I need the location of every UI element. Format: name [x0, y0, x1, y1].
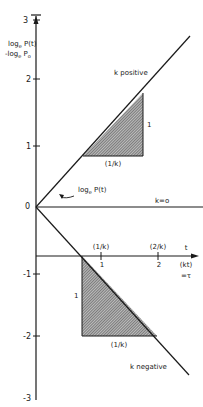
t-axis-label-tau: =τ: [181, 272, 191, 280]
y-tick-1: 1: [26, 142, 31, 151]
t-axis-arrow-icon: [191, 254, 199, 259]
y-tick-neg3: -3: [23, 394, 31, 403]
y-tick-2: 2: [26, 75, 31, 84]
lower-triangle-hatch: [82, 256, 157, 336]
y-tick-neg1: -1: [23, 270, 31, 279]
t-tick-2-over-k: (2/k): [150, 243, 167, 251]
label-k-zero: k=o: [155, 197, 169, 205]
curve-label-loge-pt: loge P(t): [78, 186, 107, 195]
upper-triangle-vertical-label: 1: [147, 121, 151, 129]
upper-triangle-hatch: [83, 93, 143, 156]
pointer-arrowhead-icon: [59, 194, 64, 199]
lower-triangle-horizontal-label: (1/k): [111, 341, 128, 349]
label-k-negative: k negative: [130, 363, 167, 371]
line-k-positive: [36, 36, 190, 207]
y-tick-0: 0: [25, 202, 30, 211]
upper-triangle-horizontal-label: (1/k): [105, 160, 122, 168]
lower-triangle-vertical-label: 1: [74, 292, 78, 300]
svg-text:-loge Po: -loge Po: [5, 50, 31, 59]
y-tick-neg2: -2: [23, 332, 31, 341]
label-k-positive: k positive: [114, 69, 148, 77]
y-axis-label: loge P(t) -loge Po: [5, 40, 37, 59]
t-axis-label-kt: (kt): [180, 261, 193, 269]
t-tick-2: 2: [157, 261, 161, 269]
line-k-negative: [36, 207, 189, 375]
t-axis: [36, 252, 199, 260]
t-axis-label-t: t: [185, 244, 188, 252]
y-tick-3: 3: [23, 16, 28, 25]
svg-text:loge P(t): loge P(t): [8, 40, 37, 49]
growth-decay-diagram: 3 2 1 0 -1 -2 -3 loge P(t) -loge Po k=o …: [0, 0, 203, 407]
t-tick-1-over-k: (1/k): [93, 243, 110, 251]
t-tick-1: 1: [100, 261, 104, 269]
